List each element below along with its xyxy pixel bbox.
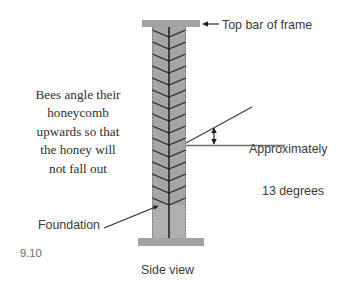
angle-label-line-2: 13 degrees: [249, 184, 337, 198]
body-text-line-5: not fall out: [14, 160, 142, 178]
figure-caption: Side view: [141, 263, 194, 277]
bottom-bar-of-frame: [138, 238, 204, 246]
figure-canvas: Bees angle their honeycomb upwards so th…: [0, 0, 341, 285]
top-bar-label: Top bar of frame: [222, 18, 312, 32]
top-bar-of-frame: [142, 20, 200, 27]
body-text-block: Bees angle their honeycomb upwards so th…: [14, 86, 142, 178]
angle-inclined-line: [186, 107, 252, 143]
angle-label-line-1: Approximately: [249, 142, 337, 156]
figure-number: 9.10: [20, 247, 42, 259]
body-text-line-3: upwards so that: [14, 123, 142, 141]
angle-label: Approximately 13 degrees: [249, 114, 337, 226]
foundation-leader-arrow: [104, 206, 158, 228]
body-text-line-1: Bees angle their: [14, 86, 142, 104]
body-text-line-2: honeycomb: [14, 104, 142, 122]
foundation-label: Foundation: [38, 218, 100, 232]
body-text-line-4: the honey will: [14, 141, 142, 159]
